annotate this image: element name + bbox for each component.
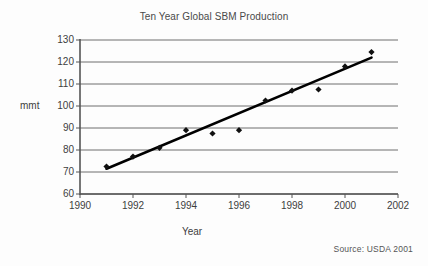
x-tick-label-2000: 2000 [325,201,365,211]
y-tick-label-90: 90 [48,123,74,133]
x-tick-label-2002: 2002 [378,201,418,211]
plot-area [80,40,398,194]
x-axis-title-text: Year [182,226,202,237]
y-axis-title: mmt [20,101,39,111]
x-tick-label-1996: 1996 [219,201,259,211]
y-tick-label-110: 110 [48,79,74,89]
data-markers [103,49,374,170]
trendline [107,58,372,169]
x-axis-title: Year [0,226,428,237]
source-note: Source: USDA 2001 [334,244,413,254]
trendline-path [107,58,372,169]
y-tick-label-60: 60 [48,189,74,199]
data-point-1999 [315,86,321,92]
y-tick-label-120: 120 [48,57,74,67]
gridlines [80,40,398,194]
x-tick-label-1994: 1994 [166,201,206,211]
y-tick-label-100: 100 [48,101,74,111]
x-axis-tick-labels: 1990199219941996199820002002 [0,201,428,215]
x-tick-label-1998: 1998 [272,201,312,211]
plot-svg [80,40,398,194]
data-point-1995 [209,130,215,136]
chart-figure: Ten Year Global SBM Production mmt 60708… [0,0,428,266]
data-point-2001 [368,49,374,55]
x-tick-label-1992: 1992 [113,201,153,211]
y-tick-label-130: 130 [48,35,74,45]
y-tick-label-70: 70 [48,167,74,177]
x-tick-label-1990: 1990 [60,201,100,211]
y-tick-label-80: 80 [48,145,74,155]
